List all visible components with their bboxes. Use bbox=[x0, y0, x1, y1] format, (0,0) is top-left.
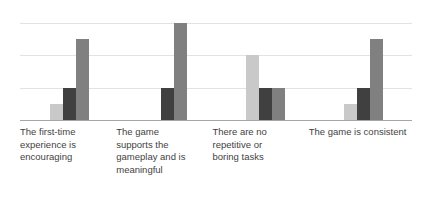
bar bbox=[63, 88, 76, 120]
plot-area: 0246 bbox=[20, 23, 412, 120]
bar bbox=[246, 55, 259, 120]
bar bbox=[174, 23, 187, 120]
bar bbox=[344, 104, 357, 120]
bar bbox=[370, 39, 383, 120]
bar-group bbox=[20, 23, 118, 120]
bar bbox=[50, 104, 63, 120]
bar-chart: 0246 The first-time experience is encour… bbox=[0, 0, 443, 209]
bar-stack bbox=[20, 23, 118, 120]
bar bbox=[259, 88, 272, 120]
bar bbox=[161, 88, 174, 120]
category-label: The game is consistent bbox=[309, 126, 412, 206]
bar-stack bbox=[216, 23, 314, 120]
bar-stack bbox=[118, 23, 216, 120]
bar-group bbox=[314, 23, 412, 120]
bar-group bbox=[118, 23, 216, 120]
bar-stack bbox=[314, 23, 412, 120]
category-label: The game supports the gameplay and is me… bbox=[116, 126, 212, 206]
category-label: There are no repetitive or boring tasks bbox=[212, 126, 308, 206]
bar-groups bbox=[20, 23, 412, 120]
bar bbox=[357, 88, 370, 120]
category-axis-labels: The first-time experience is encouraging… bbox=[20, 126, 412, 206]
bar bbox=[76, 39, 89, 120]
axis-baseline bbox=[20, 120, 412, 121]
category-label: The first-time experience is encouraging bbox=[20, 126, 116, 206]
bar bbox=[272, 88, 285, 120]
bar-group bbox=[216, 23, 314, 120]
